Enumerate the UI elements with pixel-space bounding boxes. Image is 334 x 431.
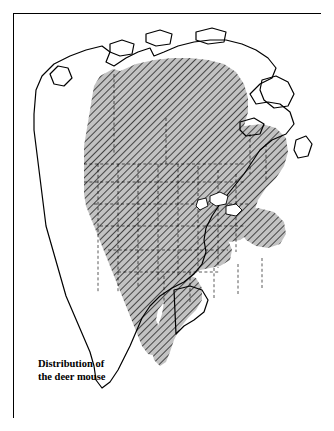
caption-line-1: Distribution of (38, 357, 105, 370)
caption-line-2: the deer mouse (38, 370, 105, 383)
figure-page: Distribution of the deer mouse (0, 0, 334, 431)
map-frame: Distribution of the deer mouse (13, 13, 321, 418)
map-caption: Distribution of the deer mouse (38, 357, 105, 383)
